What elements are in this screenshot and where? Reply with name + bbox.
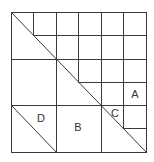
region-d-diagonal bbox=[12, 106, 57, 153]
label-b: B bbox=[74, 121, 81, 133]
label-a: A bbox=[131, 88, 139, 100]
label-c: C bbox=[111, 107, 119, 119]
label-d: D bbox=[37, 112, 45, 124]
grid-diagram: A B C D bbox=[0, 0, 154, 162]
